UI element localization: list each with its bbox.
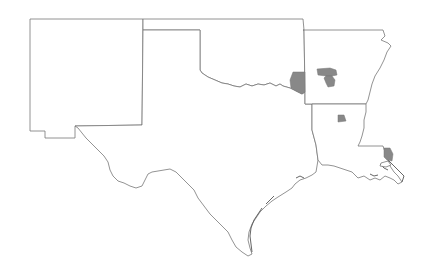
state-new-mexico[interactable] — [30, 19, 143, 138]
highlight-arkansas-central-north[interactable] — [317, 68, 337, 76]
map — [0, 0, 424, 272]
state-louisiana[interactable] — [312, 104, 402, 184]
state-arkansas[interactable] — [303, 30, 391, 104]
